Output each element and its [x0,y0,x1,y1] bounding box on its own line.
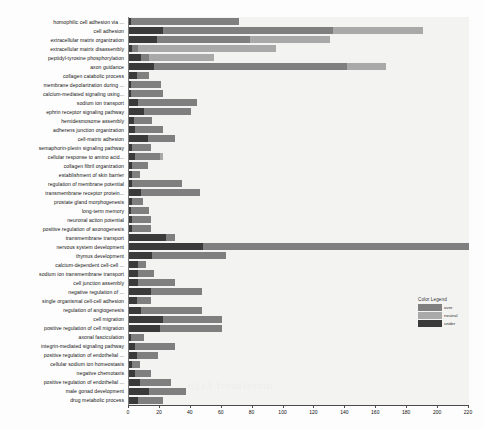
bar-segment-under [129,252,152,259]
bar-row[interactable] [129,53,469,62]
category-label: peptidyl-tyrosine phosphorylation [0,53,126,62]
x-tick [221,405,222,408]
category-label: hemidesmosome assembly [0,116,126,125]
category-label: cellular response to amino acid... [0,152,126,161]
bar-segment-under [129,288,151,295]
category-label: positive regulation of cell migration [0,324,126,333]
category-label: regulation of membrane potential [0,179,126,188]
bar-segment-under [129,388,149,395]
bar-row[interactable] [129,396,469,405]
bar-row[interactable] [129,152,469,161]
x-tick-label: 180 [402,409,410,415]
bar-row[interactable] [129,260,469,269]
category-label: transmembrane transport [0,233,126,242]
x-tick [313,405,314,408]
bar-row[interactable] [129,179,469,188]
bar-row[interactable] [129,233,469,242]
bar-row[interactable] [129,26,469,35]
bar-row[interactable] [129,188,469,197]
bar-row[interactable] [129,360,469,369]
category-label: thymus development [0,251,126,260]
bar-segment-over [163,27,333,34]
x-tick [159,405,160,408]
bar-row[interactable] [129,62,469,71]
bar-row[interactable] [129,197,469,206]
bar-segment-under [129,135,148,142]
bar-segment-over [144,108,190,115]
category-label: collagen fibril organization [0,161,126,170]
x-tick [344,405,345,408]
bar-row[interactable] [129,224,469,233]
bar-segment-over [131,334,145,341]
category-label: axonal fasciculation [0,333,126,342]
bar-segment-over [141,189,200,196]
category-label: calcium-mediated signaling using... [0,89,126,98]
legend-items: overneutralunder [418,304,480,327]
bar-row[interactable] [129,342,469,351]
bar-row[interactable] [129,351,469,360]
bar-row[interactable] [129,143,469,152]
category-label: integrin-mediated signaling pathway [0,342,126,351]
bar-row[interactable] [129,242,469,251]
bar-segment-over [132,198,143,205]
bar-row[interactable] [129,387,469,396]
legend-title: Color Legend [418,297,480,302]
bar-row[interactable] [129,125,469,134]
bar-row[interactable] [129,107,469,116]
bar-segment-under [129,270,138,277]
bar-row[interactable] [129,35,469,44]
category-label: ephrin receptor signaling pathway [0,107,126,116]
bar-segment-over [160,325,222,332]
bar-segment-neutral [333,27,423,34]
bar-row[interactable] [129,134,469,143]
bar-segment-over [138,397,163,404]
bar-segment-under [129,316,163,323]
bar-segment-under [129,379,140,386]
bar-row[interactable] [129,80,469,89]
bar-segment-under [129,279,138,286]
bar-row[interactable] [129,251,469,260]
bar-segment-over [131,18,239,25]
bar-row[interactable] [129,17,469,26]
bar-segment-over [141,54,149,61]
category-label: neuronal action potential [0,215,126,224]
bar-row[interactable] [129,278,469,287]
bar-segment-under [129,27,163,34]
legend-item[interactable]: under [418,320,480,327]
bar-row[interactable] [129,170,469,179]
bar-row[interactable] [129,71,469,80]
bar-segment-over [151,288,202,295]
bar-row[interactable] [129,369,469,378]
color-legend: Color Legend overneutralunder [418,297,480,328]
category-axis-labels: homophilic cell adhesion via ...cell adh… [0,17,126,405]
category-label: cell adhesion [0,26,126,35]
bar-row[interactable] [129,89,469,98]
category-label: homophilic cell adhesion via ... [0,17,126,26]
legend-item[interactable]: neutral [418,312,480,319]
legend-label: under [444,321,455,326]
x-tick-label: 80 [249,409,255,415]
bar-row[interactable] [129,116,469,125]
bar-row[interactable] [129,44,469,53]
bar-row[interactable] [129,287,469,296]
bar-row[interactable] [129,333,469,342]
bar-row[interactable] [129,215,469,224]
x-tick-label: 20 [156,409,162,415]
bar-row[interactable] [129,206,469,215]
bar-row[interactable] [129,269,469,278]
chart-root: homophilic cell adhesion via ...cell adh… [0,0,484,429]
x-tick-label: 160 [371,409,379,415]
category-label: positive regulation of endothelial ... [0,351,126,360]
bar-segment-over [163,316,222,323]
bar-row[interactable] [129,378,469,387]
category-label: drug metabolic process [0,396,126,405]
bar-row[interactable] [129,161,469,170]
legend-item[interactable]: over [418,304,480,311]
x-tick-label: 220 [464,409,472,415]
bar-segment-over [157,36,250,43]
bar-row[interactable] [129,98,469,107]
x-tick-label: 120 [309,409,317,415]
bar-segment-over [132,225,151,232]
x-tick [406,405,407,408]
category-label: semaphorin-plexin signaling pathway [0,143,126,152]
